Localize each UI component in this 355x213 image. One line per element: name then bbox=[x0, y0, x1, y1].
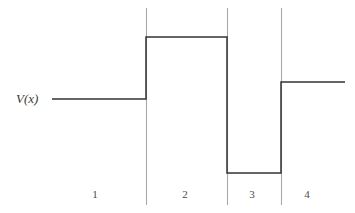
region-label-2: 2 bbox=[182, 189, 188, 200]
region-label-3: 3 bbox=[249, 189, 255, 200]
potential-curve bbox=[52, 37, 345, 173]
figure-canvas: V(x) 1 2 3 4 bbox=[0, 0, 355, 213]
region-label-1: 1 bbox=[92, 189, 98, 200]
potential-step-diagram bbox=[0, 0, 355, 213]
region-label-4: 4 bbox=[304, 189, 310, 200]
axis-label-vx: V(x) bbox=[16, 92, 38, 105]
